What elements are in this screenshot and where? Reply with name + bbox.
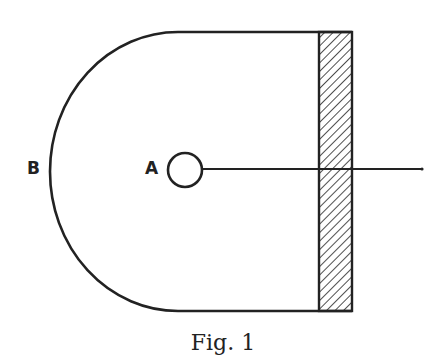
- hatched-wall: [319, 32, 352, 311]
- line-end-dot: [420, 167, 423, 170]
- circle-a: [168, 153, 202, 187]
- figure-caption: Fig. 1: [0, 330, 446, 355]
- label-b: B: [27, 158, 40, 178]
- label-a: A: [145, 158, 158, 178]
- diagram-figure: [0, 0, 446, 364]
